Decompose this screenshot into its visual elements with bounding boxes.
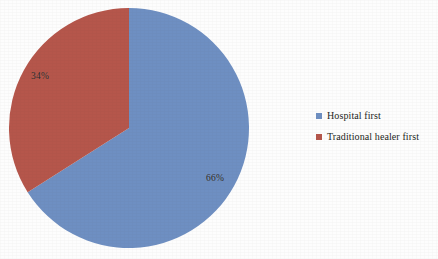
- chart-legend: Hospital first Traditional healer first: [316, 105, 438, 147]
- legend-label-traditional-healer-first: Traditional healer first: [327, 131, 419, 142]
- legend-item-traditional-healer-first[interactable]: Traditional healer first: [316, 126, 438, 147]
- legend-swatch-traditional-healer-first: [316, 134, 322, 140]
- pie-chart: 34% 66%: [9, 8, 249, 248]
- legend-item-hospital-first[interactable]: Hospital first: [316, 105, 438, 126]
- pie-slice-label-traditional-healer-first: 34%: [31, 71, 49, 81]
- pie-slice-label-hospital-first: 66%: [206, 173, 224, 183]
- legend-swatch-hospital-first: [316, 113, 322, 119]
- chart-page: 34% 66% Hospital first Traditional heale…: [0, 0, 438, 259]
- pie-chart-svg: [9, 8, 249, 248]
- legend-label-hospital-first: Hospital first: [327, 110, 381, 121]
